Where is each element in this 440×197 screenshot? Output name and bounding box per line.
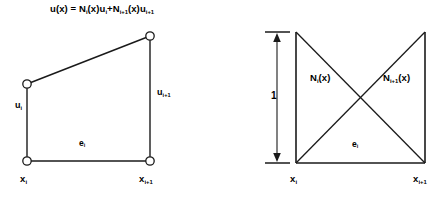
dimension-arrowhead-up-icon [273, 33, 281, 42]
node-marker-x-ip1 [146, 157, 154, 165]
u-ip1-subscript: i+1 [163, 92, 171, 98]
formula-sub-1: i [86, 9, 88, 15]
right-shape-function-diagram [265, 32, 425, 163]
label-coordinate-x-i-left: xi [20, 174, 27, 184]
interpolation-line [27, 36, 150, 84]
interpolation-formula-title: u(x) = Ni(x)ui+Ni+1(x)ui+1 [50, 4, 154, 14]
formula-part-1: u(x) = N [50, 3, 86, 14]
label-shape-function-N-ip1: Ni+1(x) [383, 73, 410, 83]
N-ip1-base: N [383, 72, 390, 83]
label-element-e-i-left: ei [79, 139, 85, 148]
label-coordinate-x-i-right: xi [290, 174, 297, 184]
x-i-subscript-right: i [295, 179, 297, 185]
label-shape-function-N-i: Ni(x) [310, 73, 331, 83]
dimension-arrowhead-down-icon [273, 153, 281, 162]
node-marker-u-i [23, 80, 31, 88]
label-coordinate-x-ip1-right: xi+1 [413, 174, 427, 184]
formula-sub-4: i+1 [146, 9, 154, 15]
formula-part-2: (x)u [88, 3, 106, 14]
u-ip1-base: u [157, 87, 163, 97]
finite-element-shape-function-figure: u(x) = Ni(x)ui+Ni+1(x)ui+1 ui ui+1 ei xi… [0, 0, 440, 197]
label-element-e-i-right: ei [352, 140, 358, 149]
label-dimension-height-one: 1 [271, 91, 277, 101]
height-dimension-annotation [265, 32, 290, 163]
x-ip1-subscript-left: i+1 [144, 179, 152, 185]
label-coordinate-x-ip1-left: xi+1 [139, 174, 153, 184]
diagram-vector-layer [0, 0, 440, 197]
u-i-subscript: i [21, 105, 23, 111]
N-i-argument: (x) [319, 72, 331, 83]
N-ip1-subscript: i+1 [390, 78, 398, 84]
N-ip1-argument: (x) [398, 72, 410, 83]
N-i-base: N [310, 72, 317, 83]
formula-sub-3: i+1 [120, 9, 128, 15]
label-nodal-value-u-ip1: ui+1 [157, 88, 171, 97]
formula-sub-2: i [105, 9, 107, 15]
node-marker-x-i [23, 157, 31, 165]
node-marker-u-ip1 [146, 32, 154, 40]
left-element-diagram [23, 32, 154, 165]
u-i-base: u [15, 100, 21, 110]
N-i-subscript: i [317, 78, 319, 84]
x-ip1-subscript-right: i+1 [418, 179, 426, 185]
formula-part-3: +N [107, 3, 120, 14]
x-i-subscript-left: i [25, 179, 27, 185]
label-nodal-value-u-i: ui [15, 101, 22, 110]
formula-part-4: (x)u [128, 3, 146, 14]
